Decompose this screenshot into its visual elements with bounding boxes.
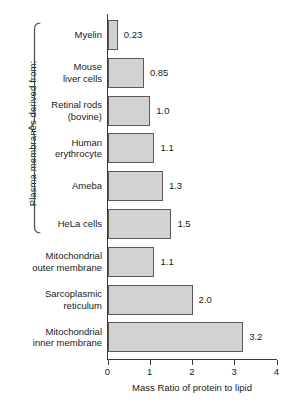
bar-value-label: 1.1 <box>160 142 173 153</box>
bar-category-label: HeLa cells <box>58 218 102 230</box>
bar-row: Sarcoplasmic reticulum2.0 <box>0 285 304 315</box>
bar <box>108 171 163 201</box>
bar-category-label: Human erythrocyte <box>55 137 102 160</box>
bar-value-label: 0.85 <box>150 67 169 78</box>
bar-category-label: Myelin <box>75 29 102 41</box>
bar-row: Mitochondrial inner membrane3.2 <box>0 322 304 352</box>
x-axis-tick <box>192 360 193 365</box>
bar-category-label: Mitochondrial inner membrane <box>33 326 102 349</box>
bar <box>108 209 171 239</box>
bar-category-label: Sarcoplasmic reticulum <box>45 288 102 311</box>
bar <box>108 133 154 163</box>
x-axis-tick-label: 1 <box>138 366 162 377</box>
bar <box>108 285 193 315</box>
bar <box>108 247 154 277</box>
bar-category-label: Mitochondrial outer membrane <box>32 250 102 273</box>
bar-row: Mitochondrial outer membrane1.1 <box>0 247 304 277</box>
bar-value-label: 1.1 <box>160 256 173 267</box>
bar-value-label: 2.0 <box>199 294 212 305</box>
x-axis-tick <box>277 360 278 365</box>
x-axis-tick-label: 2 <box>180 366 204 377</box>
bar-value-label: 1.0 <box>156 105 169 116</box>
x-axis-tick <box>108 360 109 365</box>
x-axis-tick-label: 3 <box>222 366 246 377</box>
bar-category-label: Ameba <box>72 180 102 192</box>
bar-value-label: 1.3 <box>169 180 182 191</box>
bar-category-label: Retinal rods (bovine) <box>51 99 102 122</box>
bar-category-label: Mouse liver cells <box>63 61 102 84</box>
bar <box>108 322 243 352</box>
plot-area: 01234 Mass Ratio of protein to lipid Mye… <box>0 0 304 409</box>
bar-value-label: 3.2 <box>249 331 262 342</box>
bar-row: Mouse liver cells0.85 <box>0 58 304 88</box>
bar-row: HeLa cells1.5 <box>0 209 304 239</box>
bar <box>108 58 144 88</box>
bar-row: Ameba1.3 <box>0 171 304 201</box>
bar-value-label: 0.23 <box>124 29 143 40</box>
bar <box>108 96 150 126</box>
x-axis-tick-label: 0 <box>96 366 120 377</box>
bar-row: Myelin0.23 <box>0 20 304 50</box>
bar-row: Retinal rods (bovine)1.0 <box>0 96 304 126</box>
x-axis-tick <box>234 360 235 365</box>
x-axis-tick <box>150 360 151 365</box>
figure-bar-chart: Plasma membranes derived from: 01234 Mas… <box>0 0 304 409</box>
bar-row: Human erythrocyte1.1 <box>0 133 304 163</box>
x-axis-tick-label: 4 <box>265 366 289 377</box>
x-axis-title: Mass Ratio of protein to lipid <box>107 382 277 393</box>
bar <box>108 20 118 50</box>
bar-value-label: 1.5 <box>177 218 190 229</box>
